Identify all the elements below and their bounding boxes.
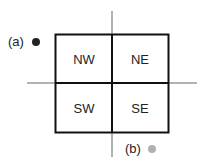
quadrant-label-sw: SW [74, 101, 96, 116]
quadrant-label-ne: NE [131, 52, 149, 67]
point-b-label: (b) [125, 141, 141, 156]
quadrant-diagram: NW NE SW SE (a) (b) [0, 0, 205, 161]
point-b-dot [148, 145, 156, 153]
quadrant-label-se: SE [131, 101, 149, 116]
quadrant-label-nw: NW [73, 52, 95, 67]
point-a-dot [32, 38, 40, 46]
point-a-label: (a) [8, 34, 24, 49]
